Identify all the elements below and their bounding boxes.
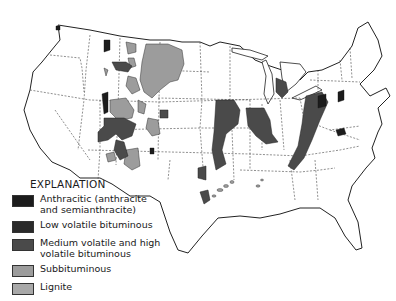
legend-item-low-volatile-bituminous: Low volatile bituminous	[12, 219, 202, 233]
legend-item-lignite: Lignite	[12, 281, 202, 295]
legend-title: EXPLANATION	[30, 178, 202, 190]
legend-label: Anthracitic (anthracite and semianthraci…	[40, 193, 147, 215]
lignite-swatch	[12, 283, 34, 295]
legend-label: Low volatile bituminous	[40, 219, 153, 230]
legend-label: Subbituminous	[40, 263, 111, 274]
medium-high-volatile-swatch	[12, 239, 34, 251]
legend-label: Medium volatile and high volatile bitumi…	[40, 237, 160, 259]
anthracitic-swatch	[12, 195, 34, 207]
legend-item-anthracitic: Anthracitic (anthracite and semianthraci…	[12, 193, 202, 215]
map-legend: EXPLANATION Anthracitic (anthracite and …	[12, 178, 202, 299]
low-volatile-swatch	[12, 221, 34, 233]
legend-label: Lignite	[40, 281, 72, 292]
legend-item-subbituminous: Subbituminous	[12, 263, 202, 277]
subbituminous-swatch	[12, 265, 34, 277]
legend-item-medium-high-volatile-bituminous: Medium volatile and high volatile bitumi…	[12, 237, 202, 259]
